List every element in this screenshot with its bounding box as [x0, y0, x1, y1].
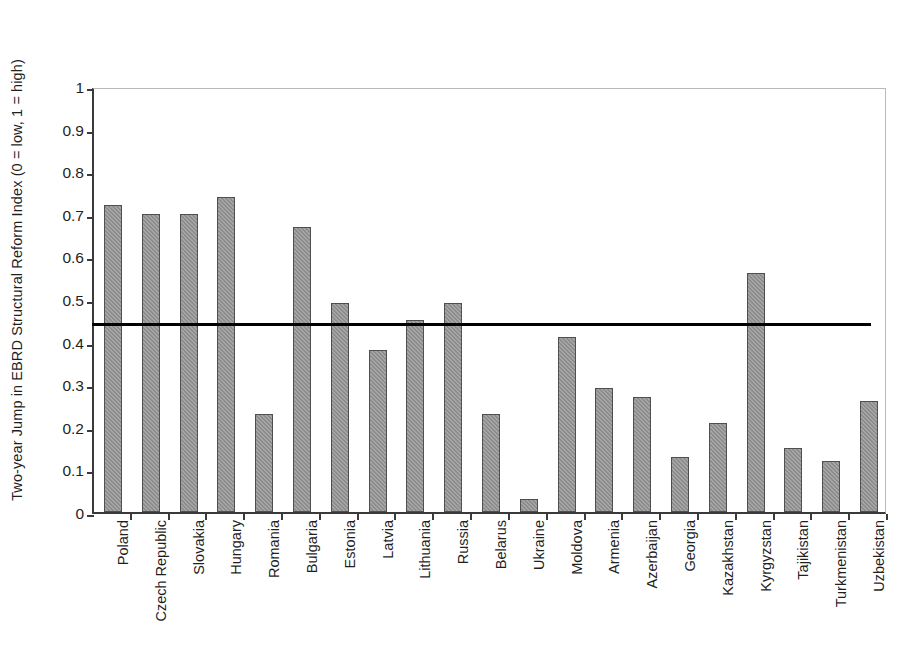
y-axis-tick-label: 0.7 — [38, 207, 84, 225]
x-axis-tick-label: Lithuania — [413, 520, 429, 579]
x-axis-tick-label-text: Kyrgyzstan — [758, 520, 774, 592]
y-axis-tick-mark — [87, 472, 94, 474]
x-axis-tick-label-text: Turkmenistan — [833, 520, 849, 607]
y-axis-tick-label: 0.8 — [38, 164, 84, 182]
bar — [747, 273, 765, 512]
y-axis-tick-mark — [87, 302, 94, 304]
x-axis-tick-label: Moldova — [565, 520, 581, 575]
x-axis-tick-label: Turkmenistan — [829, 520, 845, 607]
y-axis-tick-mark — [87, 174, 94, 176]
x-axis-tick-label: Poland — [111, 520, 127, 565]
x-axis-tick-label: Azerbaijan — [640, 520, 656, 589]
x-axis-tick-label-text: Armenia — [606, 520, 622, 574]
y-axis-title: Two-year Jump in EBRD Structural Reform … — [0, 0, 34, 560]
bar — [293, 227, 311, 512]
bar — [520, 499, 538, 512]
y-axis-tick-mark — [87, 259, 94, 261]
x-axis-tick-label: Czech Republic — [149, 520, 165, 622]
x-axis-tick-label-text: Ukraine — [531, 520, 547, 570]
bar — [822, 461, 840, 512]
bar — [104, 205, 122, 512]
y-axis-tick-mark — [87, 132, 94, 134]
x-axis-tick-label: Latvia — [376, 520, 392, 559]
x-axis-tick-label-text: Uzbekistan — [871, 520, 887, 592]
y-axis-tick-label: 0.1 — [38, 462, 84, 480]
x-axis-tick-label-text: Romania — [266, 520, 282, 578]
y-axis-tick-labels: 10.90.80.70.60.50.40.30.20.10 — [36, 88, 84, 514]
bar — [180, 214, 198, 512]
y-axis-tick-label: 0.9 — [38, 122, 84, 140]
x-axis-tick-label-text: Tajikistan — [795, 520, 811, 580]
x-axis-tick-label-text: Estonia — [342, 520, 358, 568]
bars-layer — [94, 89, 885, 512]
x-axis-tick-label-text: Poland — [115, 520, 131, 565]
x-axis-tick-label: Tajikistan — [791, 520, 807, 580]
x-axis-tick-label-text: Lithuania — [417, 520, 433, 579]
y-axis-tick-label: 0.3 — [38, 377, 84, 395]
x-axis-tick-label-text: Slovakia — [191, 520, 207, 575]
x-axis-tick-label-text: Azerbaijan — [644, 520, 660, 589]
x-axis-tick-label-text: Latvia — [380, 520, 396, 559]
bar — [217, 197, 235, 512]
bar — [709, 423, 727, 512]
x-axis-tick-label: Belarus — [489, 520, 505, 569]
y-axis-tick-label: 0.4 — [38, 335, 84, 353]
bar — [331, 303, 349, 512]
x-axis-tick-label: Armenia — [602, 520, 618, 574]
x-axis-tick-label: Bulgaria — [300, 520, 316, 573]
plot-area — [92, 88, 886, 514]
x-axis-tick-label: Kazakhstan — [716, 520, 732, 596]
y-axis-tick-label: 0.6 — [38, 249, 84, 267]
bar — [142, 214, 160, 512]
x-axis-tick-label-text: Bulgaria — [304, 520, 320, 573]
x-axis-tick-label: Estonia — [338, 520, 354, 568]
x-axis-tick-labels: PolandCzech RepublicSlovakiaHungaryRoman… — [92, 520, 886, 670]
y-axis-tick-label: 0.5 — [38, 292, 84, 310]
x-axis-tick-label-text: Belarus — [493, 520, 509, 569]
y-axis-tick-mark — [87, 89, 94, 91]
y-axis-tick-mark — [87, 345, 94, 347]
x-axis-tick-label: Georgia — [678, 520, 694, 572]
x-axis-tick-label-text: Moldova — [569, 520, 585, 575]
y-axis-tick-mark — [87, 430, 94, 432]
y-axis-title-text: Two-year Jump in EBRD Structural Reform … — [9, 59, 25, 501]
bar — [784, 448, 802, 512]
bar — [369, 350, 387, 512]
x-axis-tick-label: Kyrgyzstan — [754, 520, 770, 592]
y-axis-tick-label: 0.2 — [38, 420, 84, 438]
y-axis-tick-label: 0 — [38, 505, 84, 523]
x-axis-tick-label: Slovakia — [187, 520, 203, 575]
x-axis-tick-label: Uzbekistan — [867, 520, 883, 592]
x-axis-tick-label-text: Russia — [455, 520, 471, 564]
x-axis-tick-label: Hungary — [224, 520, 240, 575]
y-axis-tick-mark — [87, 387, 94, 389]
bar — [406, 320, 424, 512]
bar — [633, 397, 651, 512]
bar-chart: Two-year Jump in EBRD Structural Reform … — [0, 0, 909, 672]
x-axis-tick-label-text: Kazakhstan — [720, 520, 736, 596]
bar — [444, 303, 462, 512]
y-axis-tick-mark — [87, 217, 94, 219]
x-axis-tick-label-text: Georgia — [682, 520, 698, 572]
x-axis-tick-label: Ukraine — [527, 520, 543, 570]
bar — [860, 401, 878, 512]
bar — [482, 414, 500, 512]
bar — [595, 388, 613, 512]
x-axis-tick-label: Romania — [262, 520, 278, 578]
x-axis-tick-label-text: Czech Republic — [153, 520, 169, 622]
x-axis-tick-label: Russia — [451, 520, 467, 564]
bar — [671, 457, 689, 512]
bar — [255, 414, 273, 512]
bar — [558, 337, 576, 512]
reference-line — [92, 323, 871, 326]
x-axis-tick-label-text: Hungary — [228, 520, 244, 575]
y-axis-tick-label: 1 — [38, 79, 84, 97]
